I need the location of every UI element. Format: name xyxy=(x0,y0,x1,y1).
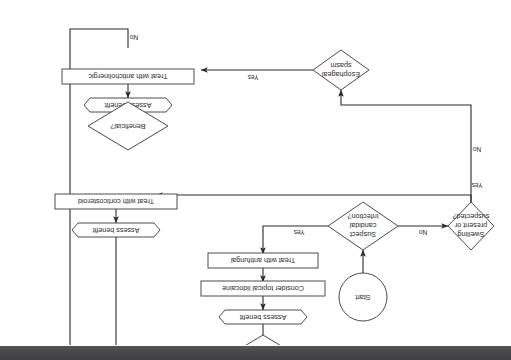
edge-label-beneficial2-no: No xyxy=(129,34,138,41)
node-swelling-line3: suspected? xyxy=(453,212,490,221)
node-assess1-label: Assess benefit xyxy=(240,313,287,322)
node-esophageal-spasm[interactable]: Esophageal spasm xyxy=(313,50,369,90)
flowchart-svg: Start Suspect candidal infection? Treat … xyxy=(0,0,511,345)
node-swelling-line2: present or xyxy=(454,221,487,230)
edge-label-candidal-yes: Yes xyxy=(293,229,304,236)
node-treat-with-antifungal[interactable]: Treat with antifungal xyxy=(208,253,318,268)
node-treat-with-anticholinergic[interactable]: Treat with anticholinergic xyxy=(62,69,194,84)
node-esophageal-line1: Esophageal xyxy=(322,70,360,79)
node-suspect-candidal-infection[interactable]: Suspect candidal infection? xyxy=(328,202,398,250)
edge-label-esophageal-yes: Yes xyxy=(247,74,258,81)
flowchart-canvas: Start Suspect candidal infection? Treat … xyxy=(0,0,511,360)
bottom-status-bar xyxy=(0,346,511,360)
node-layer: Start Suspect candidal infection? Treat … xyxy=(55,50,494,345)
node-antifungal-label: Treat with antifungal xyxy=(230,256,295,265)
node-swelling-present-or-suspected[interactable]: Swelling present or suspected? xyxy=(448,202,494,250)
node-start[interactable]: Start xyxy=(339,273,387,321)
node-anticholinergic-label: Treat with anticholinergic xyxy=(88,72,168,81)
node-beneficial2-label: Beneficial? xyxy=(110,122,145,131)
node-assess2-label: Assess benefit xyxy=(93,226,140,235)
node-candidal-line2: candidal xyxy=(349,221,376,230)
edge-label-swelling-no: No xyxy=(472,146,481,153)
node-treat-with-corticosteroid[interactable]: Treat with corticosteroid xyxy=(55,194,177,209)
node-assess-benefit-2[interactable]: Assess benefit xyxy=(72,223,160,237)
flowchart-rotated-container: Start Suspect candidal infection? Treat … xyxy=(0,0,511,345)
node-start-label: Start xyxy=(355,293,370,302)
node-swelling-line1: Swelling xyxy=(458,230,485,239)
edge-label-candidal-no: No xyxy=(418,229,427,236)
node-candidal-line3: infection? xyxy=(348,212,379,221)
node-lidocaine-label: Consider topical lidocaine xyxy=(222,284,304,293)
edge-label-swelling-yes: Yes xyxy=(471,182,482,189)
node-corticosteroid-label: Treat with corticosteroid xyxy=(78,197,154,206)
node-candidal-line1: Suspect xyxy=(350,230,376,239)
node-assess-benefit-1[interactable]: Assess benefit xyxy=(219,310,307,324)
edge-swelling-no-to-esophageal xyxy=(341,90,471,209)
node-beneficial-1[interactable]: Beneficial? xyxy=(223,335,303,345)
node-esophageal-line2: spasm xyxy=(330,61,351,70)
node-consider-topical-lidocaine[interactable]: Consider topical lidocaine xyxy=(201,281,325,296)
